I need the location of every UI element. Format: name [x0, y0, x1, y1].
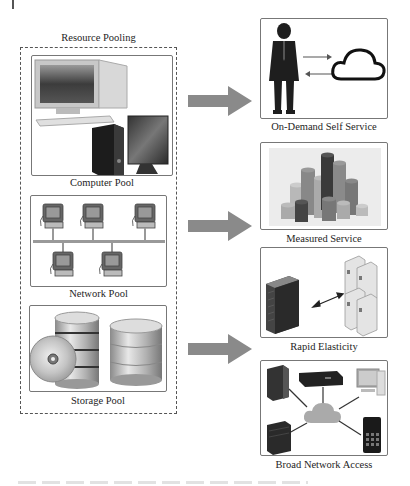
server-scaling-icon	[261, 248, 388, 338]
resource-pooling-title: Resource Pooling	[20, 32, 177, 43]
devices-cloud-icon	[261, 361, 388, 456]
network-pool-box	[30, 195, 167, 287]
on-demand-self-service-label: On-Demand Self Service	[245, 121, 403, 132]
measured-service-label: Measured Service	[245, 233, 403, 244]
rapid-elasticity-label: Rapid Elasticity	[245, 341, 403, 352]
broad-network-access-label: Broad Network Access	[245, 459, 403, 470]
page-edge-mark	[12, 0, 14, 9]
desktop-computers-icon	[32, 56, 173, 176]
right-arrow-icon	[188, 86, 254, 116]
measured-service-box	[260, 142, 388, 230]
networked-terminals-icon	[31, 196, 167, 287]
person-cloud-icon	[261, 19, 388, 119]
cylinder-bars-icon	[261, 143, 388, 230]
figure-caption-faded	[18, 481, 308, 484]
computer-pool-box	[31, 55, 173, 176]
on-demand-self-service-box	[260, 18, 388, 119]
database-disk-icon	[30, 306, 167, 392]
broad-network-access-box	[260, 360, 388, 456]
storage-pool-label: Storage Pool	[29, 395, 167, 406]
computer-pool-label: Computer Pool	[31, 177, 173, 188]
rapid-elasticity-box	[260, 247, 388, 338]
storage-pool-box	[29, 305, 167, 392]
network-pool-label: Network Pool	[30, 288, 167, 299]
